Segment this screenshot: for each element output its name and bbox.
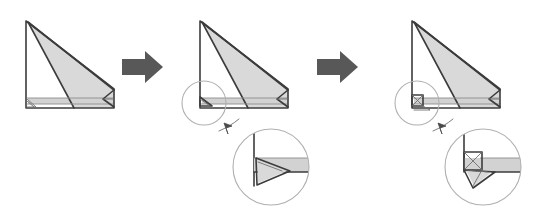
callout-2 [445,128,524,205]
step-2-figure [182,21,312,205]
callout-1 [233,128,312,205]
step-1-figure [26,21,114,108]
origami-fold-sequence-diagram [0,0,535,221]
diagram-canvas [0,0,535,221]
step-3-figure [395,21,524,205]
right-arrow-icon [122,51,163,83]
right-arrow-icon [317,51,358,83]
arrow-1 [122,51,163,83]
arrow-2 [317,51,358,83]
